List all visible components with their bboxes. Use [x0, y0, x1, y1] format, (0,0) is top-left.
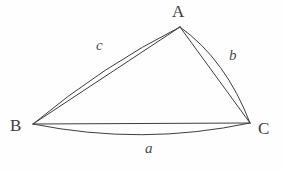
side-c-chord	[33, 27, 180, 124]
side-label-a: a	[145, 141, 153, 156]
vertex-label-a: A	[172, 3, 184, 20]
spherical-triangle-figure: A B C a b c	[0, 0, 283, 172]
side-a-arc	[33, 123, 250, 135]
side-label-c: c	[96, 38, 103, 53]
side-a-chord	[33, 123, 250, 124]
vertex-label-c: C	[258, 120, 270, 137]
triangle-drawing-canvas	[0, 0, 283, 172]
side-label-b: b	[229, 48, 237, 63]
side-b-chord	[180, 27, 250, 123]
vertex-label-b: B	[10, 117, 22, 134]
